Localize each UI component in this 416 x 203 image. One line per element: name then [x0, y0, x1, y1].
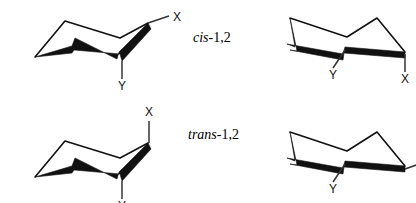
- label-cis-1-2: cis-1,2: [193, 30, 231, 46]
- substituent-label-x: X: [401, 72, 409, 86]
- ring-back-bonds: [290, 18, 405, 52]
- structure-cis-right: Y X: [285, 8, 415, 98]
- substituent-label-y: Y: [329, 68, 337, 82]
- substituent-label-y: Y: [329, 182, 337, 196]
- label-trans-prefix: trans: [188, 127, 217, 142]
- bond-to-x: [405, 162, 416, 169]
- ring-front-bonds: [287, 18, 405, 60]
- ring-back-bonds: [290, 132, 405, 166]
- structure-cis-left: X Y: [25, 5, 185, 95]
- substituent-label-y: Y: [118, 199, 126, 203]
- ring-front-bonds: [35, 23, 151, 61]
- ring-front-bonds: [287, 132, 405, 174]
- label-trans-1-2: trans-1,2: [188, 127, 239, 143]
- label-trans-suffix: -1,2: [217, 127, 239, 142]
- substituent-label-x: X: [173, 10, 181, 24]
- ring-front-bonds: [35, 143, 151, 181]
- substituent-label-y: Y: [118, 79, 126, 93]
- chair-conformation-figure: X Y Y X cis-1,2 X Y: [0, 0, 416, 203]
- label-cis-suffix: -1,2: [209, 30, 231, 45]
- structure-trans-right: Y X: [285, 120, 415, 203]
- structure-trans-left: X Y: [25, 105, 185, 200]
- substituent-label-x: X: [145, 105, 153, 119]
- label-cis-prefix: cis: [193, 30, 209, 45]
- bond-to-x: [148, 16, 169, 23]
